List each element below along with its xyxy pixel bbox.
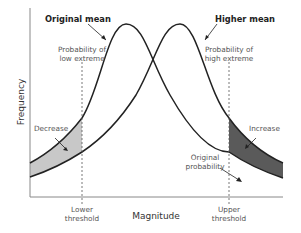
y-axis-label: Frequency xyxy=(16,78,26,125)
upper-threshold-label-2: threshold xyxy=(212,214,246,223)
decrease-label: Decrease xyxy=(34,124,69,133)
prob-low-label-2: low extreme xyxy=(59,54,105,63)
climate-extremes-diagram: Original mean Higher mean Probability of… xyxy=(0,0,301,233)
higher-mean-label: Higher mean xyxy=(215,14,275,24)
original-probability-label-1: Original xyxy=(191,153,220,162)
lower-threshold-label-1: Lower xyxy=(71,205,93,214)
prob-high-label-2: high extreme xyxy=(205,54,254,63)
x-axis-label: Magnitude xyxy=(132,211,180,221)
original-probability-label-2: probability xyxy=(186,162,226,171)
prob-low-label-1: Probability of xyxy=(58,45,106,54)
arrowhead-icon xyxy=(236,177,242,182)
original-mean-label: Original mean xyxy=(45,14,111,24)
lower-threshold-label-2: threshold xyxy=(65,214,99,223)
prob-high-label-1: Probability of xyxy=(205,45,253,54)
upper-threshold-label-1: Upper xyxy=(218,205,240,214)
increase-label: Increase xyxy=(249,124,280,133)
